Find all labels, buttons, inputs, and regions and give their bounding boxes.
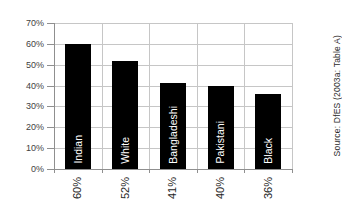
bar-indian: Indian: [65, 44, 91, 169]
category-label: Indian: [73, 135, 84, 164]
bars-container: IndianWhiteBangladeshiPakistaniBlack: [54, 23, 292, 169]
bar-slot: Indian: [54, 44, 102, 169]
y-tick-mark: [47, 106, 54, 107]
y-tick-label: 40%: [0, 81, 44, 91]
y-tick-mark: [47, 169, 54, 170]
bar-slot: White: [102, 61, 150, 169]
y-tick-label: 20%: [0, 122, 44, 132]
category-label: White: [120, 137, 131, 164]
value-label-slot: 41%: [149, 177, 197, 199]
value-labels-row: 60%52%41%40%36%: [54, 177, 292, 199]
y-tick-label: 30%: [0, 101, 44, 111]
y-tick-mark: [47, 127, 54, 128]
value-label-slot: 40%: [197, 177, 245, 199]
y-tick-label: 50%: [0, 60, 44, 70]
bar-bangladeshi: Bangladeshi: [160, 83, 186, 169]
value-label-slot: 52%: [102, 177, 150, 199]
y-tick-label: 70%: [0, 18, 44, 28]
category-tick-mark: [102, 170, 103, 173]
category-axis-ticks: [54, 170, 292, 173]
y-tick-label: 0%: [0, 164, 44, 174]
source-note-wrap: Source: DfES (2003a: Table A): [332, 0, 342, 192]
value-label: 36%: [263, 177, 274, 199]
value-label-slot: 36%: [244, 177, 292, 199]
y-tick-mark: [47, 44, 54, 45]
category-label: Black: [263, 138, 274, 164]
v-gridline: [292, 23, 293, 169]
plot-area: IndianWhiteBangladeshiPakistaniBlack: [54, 23, 292, 169]
category-tick-mark: [244, 170, 245, 173]
y-axis-ticks: [47, 23, 54, 169]
bar-chart-figure: 70%60%50%40%30%20%10%0% IndianWhiteBangl…: [0, 0, 354, 219]
y-tick-mark: [47, 65, 54, 66]
bar-slot: Bangladeshi: [149, 83, 197, 169]
bar-slot: Pakistani: [197, 86, 245, 169]
value-label: 41%: [167, 177, 178, 199]
bar-slot: Black: [244, 94, 292, 169]
y-tick-mark: [47, 86, 54, 87]
y-tick-label: 60%: [0, 39, 44, 49]
value-label-slot: 60%: [54, 177, 102, 199]
category-tick-mark: [54, 170, 55, 173]
bar-white: White: [112, 61, 138, 169]
category-label: Bangladeshi: [168, 106, 179, 164]
y-tick-label: 10%: [0, 143, 44, 153]
source-note: Source: DfES (2003a: Table A): [332, 35, 342, 156]
y-tick-mark: [47, 148, 54, 149]
category-tick-mark: [149, 170, 150, 173]
y-axis-labels: 70%60%50%40%30%20%10%0%: [0, 23, 44, 169]
category-tick-mark: [292, 170, 293, 173]
value-label: 52%: [120, 177, 131, 199]
bar-black: Black: [255, 94, 281, 169]
category-tick-mark: [197, 170, 198, 173]
y-tick-mark: [47, 23, 54, 24]
category-label: Pakistani: [215, 121, 226, 164]
y-axis-line: [54, 23, 55, 170]
bar-pakistani: Pakistani: [208, 86, 234, 169]
value-label: 60%: [72, 177, 83, 199]
value-label: 40%: [215, 177, 226, 199]
